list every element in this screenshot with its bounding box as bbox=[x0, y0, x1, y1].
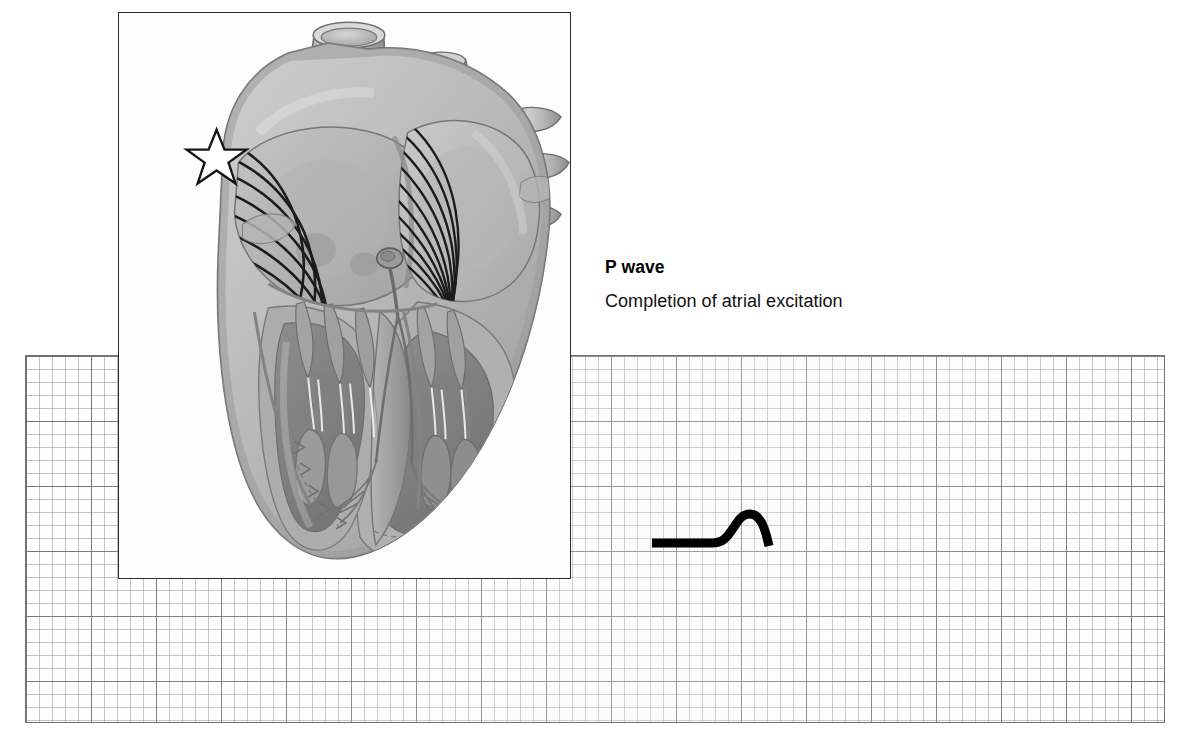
wave-title: P wave bbox=[605, 256, 1005, 279]
ecg-trace-path bbox=[652, 514, 769, 546]
figure-root: P wave Completion of atrial excitation bbox=[0, 0, 1181, 744]
heart-anatomy-svg bbox=[119, 13, 570, 578]
av-node bbox=[377, 248, 403, 268]
wave-description: Completion of atrial excitation bbox=[605, 290, 1005, 313]
wave-label-block: P wave Completion of atrial excitation bbox=[605, 256, 1005, 313]
heart-illustration-panel bbox=[118, 12, 571, 579]
left-atrial-appendage bbox=[519, 176, 559, 202]
ecg-trace bbox=[600, 470, 840, 590]
